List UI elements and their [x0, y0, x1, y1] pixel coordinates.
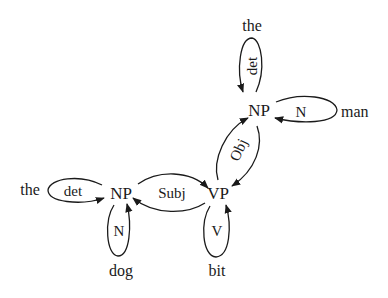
label-v-bit: V: [212, 223, 223, 239]
label-n-man: N: [296, 104, 307, 120]
label-n-dog: N: [114, 223, 125, 239]
word-man: man: [341, 103, 369, 120]
word-dog: dog: [109, 262, 133, 280]
node-np-object: NP: [248, 101, 270, 120]
node-np-subject: NP: [110, 184, 132, 203]
dependency-diagram: NP NP VP the man the dog bit det N Obj d…: [0, 0, 388, 298]
label-subj: Subj: [158, 185, 186, 201]
label-obj: Obj: [226, 136, 250, 163]
word-the-top: the: [242, 17, 262, 34]
word-the-left: the: [20, 181, 40, 198]
label-det-top: det: [244, 56, 260, 75]
label-det-left: det: [64, 183, 83, 199]
node-vp: VP: [207, 184, 229, 203]
word-bit: bit: [209, 262, 226, 279]
